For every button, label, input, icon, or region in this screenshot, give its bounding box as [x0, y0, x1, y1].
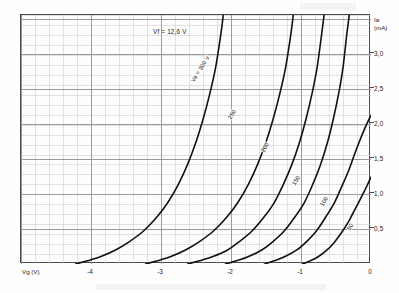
y-tick-label: 0,5 — [374, 224, 383, 231]
y-tick-label: 2,0 — [374, 119, 383, 126]
x-tick-label: -3 — [157, 268, 163, 275]
condition-annotation: Vf = 12,6 V — [153, 28, 187, 35]
x-tick-label: -1 — [297, 268, 303, 275]
scan-smudge — [96, 284, 326, 290]
y-tick-label: 1,0 — [374, 189, 383, 196]
x-axis-title: Vg (V) — [22, 268, 40, 275]
figure-page: Ia (mA) Vg (V) Vf = 12,6 V 0,51,01,52,02… — [0, 0, 399, 293]
y-tick-label: 1,5 — [374, 154, 383, 161]
x-tick-label: -2 — [227, 268, 233, 275]
curve-layer — [21, 15, 371, 264]
y-tick-label: 3,0 — [374, 49, 383, 56]
scan-smudge — [300, 3, 356, 10]
x-tick-label: -4 — [87, 268, 93, 275]
x-tick-label: 0 — [368, 268, 372, 275]
y-tick-label: 2,5 — [374, 84, 383, 91]
y-axis-title: Ia (mA) — [374, 16, 387, 31]
plot-area — [20, 14, 370, 263]
